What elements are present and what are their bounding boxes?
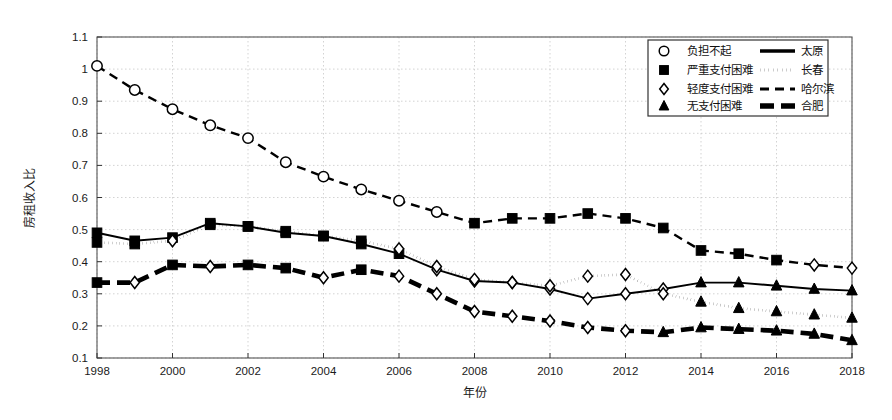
data-point-marker-square — [92, 278, 102, 288]
data-point-marker-circle — [659, 46, 669, 56]
y-tick-label: 0.4 — [72, 256, 89, 268]
x-tick-label: 2012 — [613, 365, 639, 377]
data-point-marker-square — [545, 214, 555, 224]
y-tick-label: 0.2 — [72, 320, 88, 332]
data-point-marker-circle — [205, 120, 215, 130]
x-tick-label: 2000 — [160, 365, 186, 377]
legend-marker-label-circle: 负担不起 — [687, 44, 732, 58]
x-tick-label: 2004 — [311, 365, 337, 377]
data-point-marker-circle — [167, 104, 177, 114]
data-point-marker-square — [470, 218, 480, 228]
legend-series-label-长春: 长春 — [801, 63, 824, 77]
data-point-marker-square — [205, 220, 215, 230]
data-point-marker-square — [660, 66, 669, 75]
x-tick-label: 2018 — [839, 365, 865, 377]
data-point-marker-circle — [281, 157, 291, 167]
legend-marker-label-triangle: 无支付困难 — [687, 99, 742, 113]
data-point-marker-circle — [432, 207, 442, 217]
y-tick-label: 0.5 — [72, 224, 88, 236]
x-tick-label: 2016 — [764, 365, 790, 377]
data-point-marker-square — [772, 255, 782, 265]
data-point-marker-square — [658, 223, 668, 233]
data-point-marker-square — [281, 263, 291, 273]
x-axis-title: 年份 — [463, 386, 487, 400]
data-point-marker-square — [507, 214, 517, 224]
chart-figure: 0.10.20.30.40.50.60.70.80.911.1199820002… — [0, 0, 892, 420]
data-point-marker-circle — [92, 61, 102, 71]
legend-series-label-太原: 太原 — [801, 44, 823, 58]
x-tick-label: 2006 — [386, 365, 412, 377]
x-tick-label: 2002 — [235, 365, 261, 377]
y-tick-label: 1.1 — [72, 31, 88, 43]
data-point-marker-circle — [318, 171, 328, 181]
x-tick-label: 2008 — [462, 365, 488, 377]
y-axis-title: 房租收入比 — [22, 168, 37, 228]
x-tick-label: 2010 — [537, 365, 563, 377]
data-point-marker-circle — [394, 196, 404, 206]
y-tick-label: 0.8 — [72, 127, 88, 139]
data-point-marker-square — [621, 214, 631, 224]
data-point-marker-square — [356, 236, 366, 246]
data-point-marker-square — [734, 249, 744, 259]
y-tick-label: 0.9 — [72, 95, 88, 107]
legend-marker-label-diamond: 轻度支付困难 — [687, 82, 753, 96]
data-point-marker-square — [130, 239, 140, 249]
data-point-marker-square — [281, 226, 291, 236]
y-tick-label: 1 — [82, 63, 88, 75]
y-tick-label: 0.6 — [72, 192, 88, 204]
data-point-marker-square — [696, 246, 706, 256]
x-tick-label: 1998 — [84, 365, 110, 377]
data-point-marker-square — [168, 260, 178, 270]
data-point-marker-circle — [356, 184, 366, 194]
data-point-marker-square — [243, 222, 253, 232]
y-tick-label: 0.3 — [72, 288, 88, 300]
data-point-marker-square — [92, 238, 102, 248]
data-point-marker-circle — [130, 85, 140, 95]
x-tick-label: 2014 — [688, 365, 714, 377]
data-point-marker-square — [319, 231, 329, 241]
data-point-marker-square — [583, 209, 593, 219]
legend-series-label-合肥: 合肥 — [801, 99, 824, 113]
legend-marker-label-square: 严重支付困难 — [687, 63, 753, 77]
data-point-marker-square — [243, 260, 253, 270]
y-tick-label: 0.7 — [72, 159, 88, 171]
y-tick-label: 0.1 — [72, 352, 88, 364]
data-point-marker-square — [356, 265, 366, 275]
rent-to-income-ratio-line-chart: 0.10.20.30.40.50.60.70.80.911.1199820002… — [0, 0, 892, 420]
data-point-marker-circle — [243, 133, 253, 143]
legend: 负担不起严重支付困难轻度支付困难无支付困难太原长春哈尔滨合肥 — [648, 40, 835, 116]
legend-series-label-哈尔滨: 哈尔滨 — [801, 82, 835, 96]
data-point-marker-square — [92, 228, 102, 238]
